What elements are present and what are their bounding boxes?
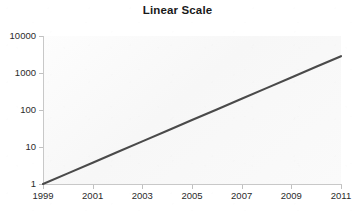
x-tick-label-2009: 2009	[281, 190, 302, 201]
x-tick-label-2001: 2001	[82, 190, 103, 201]
chart-figure: Linear Scale 100001000100101 19992001200…	[0, 0, 355, 216]
x-tick-label-2003: 2003	[132, 190, 153, 201]
x-tick-label-1999: 1999	[32, 190, 53, 201]
series-layer	[43, 36, 341, 184]
y-tick-label-100: 100	[0, 105, 36, 115]
x-tick-2009	[291, 185, 292, 189]
x-tick-label-2007: 2007	[231, 190, 252, 201]
x-tick-label-2011: 2011	[331, 190, 351, 201]
x-tick-2003	[142, 185, 143, 189]
x-tick-1999	[43, 185, 44, 189]
x-tick-2011	[341, 185, 342, 189]
chart-title: Linear Scale	[0, 3, 355, 17]
x-tick-2005	[192, 185, 193, 189]
x-tick-2007	[242, 185, 243, 189]
y-tick-label-1: 1	[0, 179, 36, 189]
y-tick-label-10: 10	[0, 142, 36, 152]
y-tick-label-10000: 10000	[0, 31, 36, 41]
x-tick-label-2005: 2005	[181, 190, 202, 201]
y-tick-label-1000: 1000	[0, 68, 36, 78]
series-line-exponential-growth	[43, 56, 341, 184]
x-tick-2001	[93, 185, 94, 189]
